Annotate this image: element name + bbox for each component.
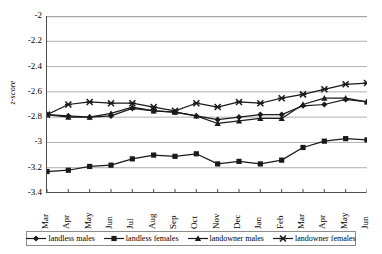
data-series: [47, 136, 367, 174]
legend-entry: landless females: [104, 234, 179, 243]
data-point-marker: [47, 169, 50, 174]
x-axis-tick-label: Feb: [276, 216, 285, 230]
data-point-marker: [257, 100, 264, 106]
data-point-marker: [66, 168, 71, 173]
legend-label: landowner females: [295, 235, 356, 243]
data-point-marker: [194, 151, 199, 156]
data-point-marker: [108, 100, 115, 106]
data-series: [47, 80, 367, 118]
data-point-marker: [278, 95, 285, 101]
y-axis-tick-label: -2: [16, 11, 42, 20]
data-point-marker: [130, 156, 135, 161]
legend-entry: landowner females: [273, 234, 356, 243]
x-axis-tick-label: May: [84, 213, 93, 230]
y-axis-tick-label: -2.8: [16, 112, 42, 121]
legend-marker-triangle-icon: [188, 234, 208, 243]
data-point-marker: [364, 80, 367, 86]
x-axis-tick-label: Nov: [212, 214, 221, 230]
legend-label: landowner males: [210, 235, 264, 243]
data-point-marker: [65, 102, 72, 108]
chart-legend: landless maleslandless femaleslandowner …: [26, 231, 356, 246]
x-axis-tick-label: May: [340, 213, 349, 230]
data-series: [47, 95, 367, 126]
data-point-marker: [111, 236, 116, 241]
legend-marker-square-icon: [104, 234, 124, 243]
y-axis-tick-label: -2.2: [16, 36, 42, 45]
data-point-marker: [33, 235, 39, 241]
data-point-marker: [343, 136, 348, 141]
data-point-marker: [87, 164, 92, 169]
y-axis-tick-label: -3: [16, 137, 42, 146]
data-point-marker: [86, 99, 93, 105]
x-axis-tick-label: Apr: [318, 215, 327, 229]
data-point-marker: [172, 154, 177, 159]
legend-marker-diamond-icon: [26, 234, 46, 243]
legend-label: landless males: [48, 235, 94, 243]
data-point-marker: [300, 145, 305, 150]
data-point-marker: [342, 81, 349, 87]
data-point-marker: [193, 100, 200, 106]
plot-svg: [47, 16, 367, 193]
y-axis-tick-label: -2.4: [16, 62, 42, 71]
data-point-marker: [215, 161, 220, 166]
x-axis-tick-label: Aug: [148, 214, 157, 230]
x-axis-tick-label: Mar: [41, 214, 50, 229]
series-line: [47, 139, 367, 172]
y-axis-tick-label: -2.6: [16, 87, 42, 96]
plot-area: [46, 16, 366, 193]
x-axis-tick-label: Dec: [233, 215, 242, 230]
data-point-marker: [258, 161, 263, 166]
x-axis-tick-label: Apr: [62, 215, 71, 229]
series-line: [47, 83, 367, 115]
x-axis-tick-label: Jul: [126, 218, 135, 229]
data-point-marker: [214, 104, 221, 110]
data-point-marker: [151, 152, 156, 157]
line-chart: z-score -2-2.2-2.4-2.6-2.8-3-3.2-3.4 Mar…: [0, 0, 382, 254]
data-point-marker: [236, 99, 243, 105]
legend-label: landless females: [126, 235, 179, 243]
legend-marker-x-icon: [273, 234, 293, 243]
x-axis-tick-label: Jun: [361, 216, 370, 229]
legend-entry: landless males: [26, 234, 94, 243]
x-axis-tick-labels: MarAprMayJunJulAugSepOctNovDecJanFebMarA…: [46, 195, 366, 229]
x-axis-tick-label: Oct: [190, 216, 199, 229]
x-axis-tick-label: Mar: [297, 214, 306, 229]
data-point-marker: [108, 163, 113, 168]
x-axis-tick-label: Jan: [254, 217, 263, 229]
data-point-marker: [364, 137, 367, 142]
y-axis-tick-label: -3.4: [16, 188, 42, 197]
data-point-marker: [280, 236, 287, 242]
data-point-marker: [236, 159, 241, 164]
data-point-marker: [279, 158, 284, 163]
x-axis-tick-label: Jun: [105, 216, 114, 229]
data-point-marker: [321, 101, 327, 107]
legend-entry: landowner males: [188, 234, 264, 243]
y-axis-tick-label: -3.2: [16, 163, 42, 172]
data-point-marker: [322, 139, 327, 144]
y-axis-tick-labels: -2-2.2-2.4-2.6-2.8-3-3.2-3.4: [14, 0, 42, 254]
x-axis-tick-label: Sep: [169, 216, 178, 230]
